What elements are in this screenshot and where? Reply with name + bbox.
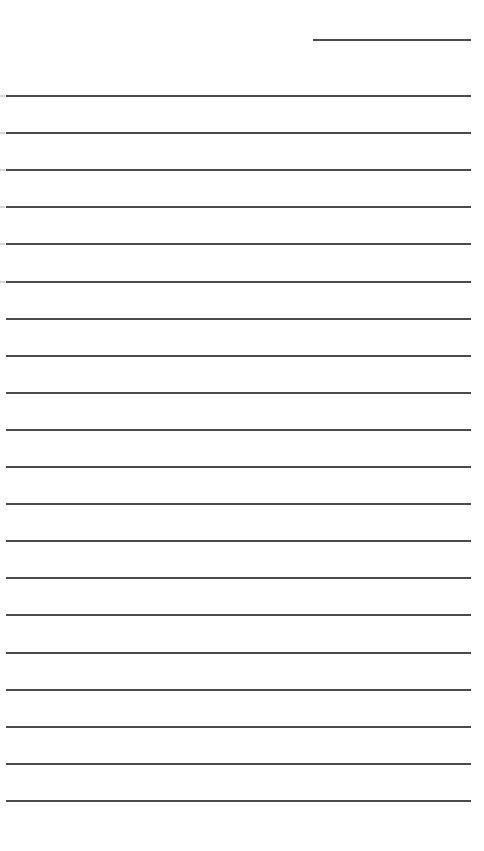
ruled-line [6, 800, 471, 802]
ruled-line [6, 540, 471, 542]
ruled-line [6, 206, 471, 208]
ruled-line [6, 763, 471, 765]
date-line [313, 39, 471, 41]
ruled-line [6, 169, 471, 171]
ruled-line [6, 429, 471, 431]
margin-tick [0, 132, 5, 134]
ruled-line [6, 466, 471, 468]
ruled-line [6, 689, 471, 691]
notepad-sheet [0, 0, 484, 851]
ruled-line [6, 318, 471, 320]
ruled-line [6, 614, 471, 616]
ruled-line [6, 95, 471, 97]
ruled-line [6, 392, 471, 394]
ruled-line [6, 355, 471, 357]
ruled-line [6, 243, 471, 245]
ruled-line [6, 132, 471, 134]
margin-tick [0, 206, 5, 208]
ruled-line [6, 726, 471, 728]
margin-tick [0, 281, 5, 283]
ruled-line [6, 577, 471, 579]
margin-tick [0, 243, 5, 245]
ruled-line [6, 281, 471, 283]
margin-tick [0, 95, 5, 97]
ruled-line [6, 652, 471, 654]
ruled-line [6, 503, 471, 505]
margin-tick [0, 169, 5, 171]
